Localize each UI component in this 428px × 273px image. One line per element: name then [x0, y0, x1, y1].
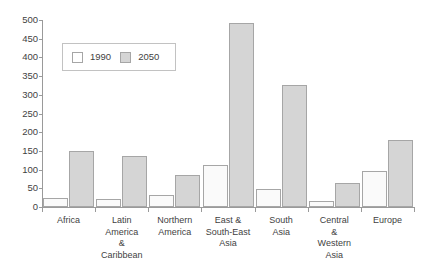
category-label-line: Asia	[308, 250, 361, 262]
bar-2050	[388, 140, 413, 207]
x-axis-group-separator	[148, 207, 149, 212]
y-axis-tick-label: 100	[0, 165, 38, 175]
category-label-line: &	[308, 227, 361, 239]
bar-1990	[203, 165, 228, 207]
category-label: Central&WesternAsia	[308, 215, 361, 261]
category-label: NorthernAmerica	[148, 215, 201, 238]
category-label-line: Caribbean	[95, 250, 148, 262]
bar-2050	[335, 183, 360, 207]
y-axis-tick-label: 250	[0, 109, 38, 119]
category-label: Europe	[361, 215, 414, 227]
category-label-line: Africa	[42, 215, 95, 227]
x-axis-group-separator	[42, 207, 43, 212]
category-label-line: Asia	[201, 238, 254, 250]
y-axis-tick-label: 150	[0, 146, 38, 156]
x-axis-group-separator	[95, 207, 96, 212]
bar-1990	[43, 198, 68, 207]
bar-group	[256, 20, 307, 207]
x-axis-line	[42, 207, 414, 208]
bar-group	[309, 20, 360, 207]
white-square-swatch-icon	[72, 52, 83, 63]
bar-1990	[309, 201, 334, 207]
y-axis-tick-label: 500	[0, 15, 38, 25]
bar-1990	[96, 199, 121, 207]
category-label-line: Northern	[148, 215, 201, 227]
category-label-line: Central	[308, 215, 361, 227]
category-label: SouthAsia	[255, 215, 308, 238]
category-label-line: America	[148, 227, 201, 239]
category-label-line: East &	[201, 215, 254, 227]
bar-2050	[69, 151, 94, 207]
bar-2050	[175, 175, 200, 207]
y-axis-tick-label: 0	[0, 202, 38, 212]
bar-1990	[149, 195, 174, 207]
legend-entry-2050: 2050	[120, 52, 159, 63]
category-label: East &South-EastAsia	[201, 215, 254, 250]
category-label-line: South	[255, 215, 308, 227]
bar-1990	[362, 171, 387, 207]
bar-group	[362, 20, 413, 207]
bar-group	[203, 20, 254, 207]
category-label-line: Latin	[95, 215, 148, 227]
bar-2050	[282, 85, 307, 207]
category-label-line: Asia	[255, 227, 308, 239]
x-axis-group-separator	[308, 207, 309, 212]
x-axis-group-separator	[255, 207, 256, 212]
y-axis-tick-label: 200	[0, 127, 38, 137]
bar-2050	[229, 23, 254, 207]
category-label-line: Western	[308, 238, 361, 250]
x-axis-group-separator	[201, 207, 202, 212]
y-axis-tick-label: 50	[0, 183, 38, 193]
legend-label-1990: 1990	[90, 52, 111, 62]
legend-entry-1990: 1990	[72, 52, 111, 63]
gray-square-swatch-icon	[120, 52, 131, 63]
chart-legend: 1990 2050	[62, 43, 176, 71]
bar-chart: 050100150200250300350400450500 AfricaLat…	[0, 0, 428, 273]
y-axis-tick-label: 300	[0, 90, 38, 100]
category-label-line: South-East	[201, 227, 254, 239]
category-label: Africa	[42, 215, 95, 227]
y-axis-tick-label: 350	[0, 71, 38, 81]
category-label-line: America	[95, 227, 148, 239]
bar-2050	[122, 156, 147, 207]
x-axis-group-separator	[361, 207, 362, 212]
legend-label-2050: 2050	[138, 52, 159, 62]
category-label-line: Europe	[361, 215, 414, 227]
y-axis-tick-label: 450	[0, 34, 38, 44]
category-label: LatinAmerica&Caribbean	[95, 215, 148, 261]
category-label-line: &	[95, 238, 148, 250]
y-axis-tick-label: 400	[0, 52, 38, 62]
bar-1990	[256, 189, 281, 207]
x-axis-group-separator	[414, 207, 415, 212]
